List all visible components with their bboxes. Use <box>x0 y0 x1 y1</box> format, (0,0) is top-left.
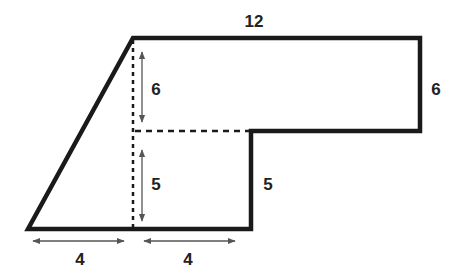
label-inner-lower: 5 <box>151 175 160 194</box>
label-right-upper: 6 <box>431 80 440 99</box>
label-top: 12 <box>245 12 264 31</box>
composite-shape-diagram: 12 6 6 5 5 4 4 <box>0 0 462 275</box>
label-bottom-right: 4 <box>183 250 193 269</box>
label-inner-upper: 6 <box>151 80 160 99</box>
label-bottom-left: 4 <box>75 250 85 269</box>
shape-outline <box>28 38 420 229</box>
label-right-lower: 5 <box>263 175 272 194</box>
